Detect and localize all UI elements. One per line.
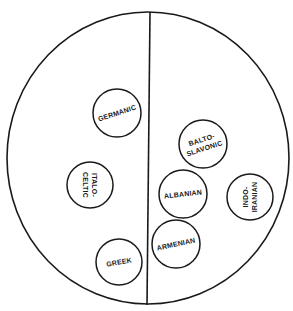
node-armenian: ARMENIAN xyxy=(152,220,200,268)
node-germanic: GERMANIC xyxy=(93,89,141,137)
node-circle xyxy=(227,174,273,220)
node-balto-slavonic: BALTO-SLAVONIC xyxy=(179,120,227,168)
node-circle xyxy=(67,162,113,208)
node-albanian: ALBANIAN xyxy=(159,170,207,218)
divider-line xyxy=(147,12,150,305)
node-indo-iranian: INDO-IRANIAN xyxy=(227,174,273,220)
indo-european-diagram: GERMANICITALO-CELTICGREEKBALTO-SLAVONICA… xyxy=(0,0,293,311)
node-greek: GREEK xyxy=(96,239,142,285)
node-italo-celtic: ITALO-CELTIC xyxy=(67,162,113,208)
language-group-nodes: GERMANICITALO-CELTICGREEKBALTO-SLAVONICA… xyxy=(67,89,273,285)
